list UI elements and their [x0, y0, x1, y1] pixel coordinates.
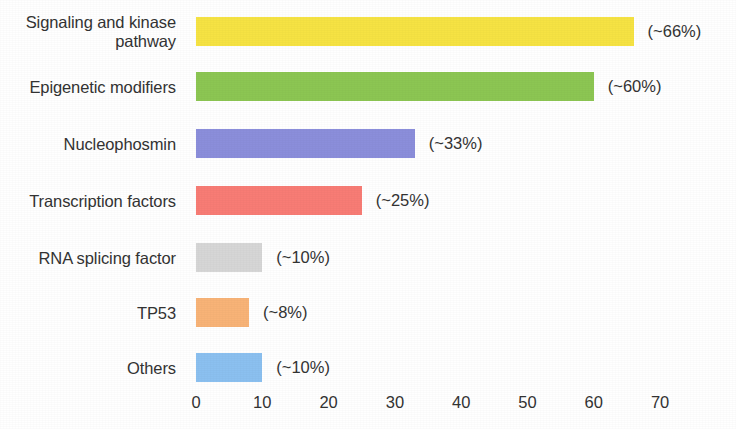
bar-category-label: RNA splicing factor [0, 249, 186, 268]
bar-periwinkle [196, 129, 415, 158]
bar-salmon [196, 186, 362, 215]
bar-value-label: (~10%) [276, 247, 330, 268]
bar-orange [196, 298, 249, 327]
bar-value-label: (~60%) [608, 76, 662, 97]
bar-track: (~66%) [186, 9, 736, 55]
bar-light-blue [196, 353, 262, 382]
x-axis-tick-label: 20 [319, 392, 337, 412]
bar-yellow [196, 17, 634, 46]
horizontal-bar-chart: Signaling and kinase pathway(~66%)Epigen… [0, 0, 736, 429]
bar-track: (~60%) [186, 64, 736, 110]
bar-value-label: (~10%) [276, 357, 330, 378]
bar-category-label: Transcription factors [0, 192, 186, 211]
bar-row: Transcription factors(~25%) [0, 178, 736, 224]
bar-row: Epigenetic modifiers(~60%) [0, 64, 736, 110]
bar-category-label: Epigenetic modifiers [0, 78, 186, 97]
bar-category-label: Nucleophosmin [0, 135, 186, 154]
bar-value-label: (~8%) [263, 302, 307, 323]
x-axis-tick-label: 50 [518, 392, 536, 412]
bar-value-label: (~66%) [648, 21, 702, 42]
bar-category-label: TP53 [0, 304, 186, 323]
x-axis-tick-label: 10 [253, 392, 271, 412]
x-axis-tick-label: 40 [452, 392, 470, 412]
bar-row: TP53(~8%) [0, 290, 736, 336]
x-axis-tick-label: 60 [585, 392, 603, 412]
bar-track: (~33%) [186, 121, 736, 167]
x-axis: 010203040506070 [0, 392, 736, 422]
x-axis-tick-label: 0 [191, 392, 200, 412]
bar-row: RNA splicing factor(~10%) [0, 235, 736, 281]
bar-value-label: (~33%) [429, 133, 483, 154]
x-axis-tick-label: 70 [651, 392, 669, 412]
bar-track: (~10%) [186, 345, 736, 391]
bar-category-label: Others [0, 359, 186, 378]
bar-row: Others(~10%) [0, 345, 736, 391]
bar-track: (~10%) [186, 235, 736, 281]
bar-track: (~8%) [186, 290, 736, 336]
bar-green [196, 72, 594, 101]
bar-category-label: Signaling and kinase pathway [0, 13, 186, 51]
bar-grey [196, 243, 262, 272]
bar-row: Signaling and kinase pathway(~66%) [0, 9, 736, 55]
bar-value-label: (~25%) [376, 190, 430, 211]
bar-row: Nucleophosmin(~33%) [0, 121, 736, 167]
bar-track: (~25%) [186, 178, 736, 224]
x-axis-tick-label: 30 [386, 392, 404, 412]
